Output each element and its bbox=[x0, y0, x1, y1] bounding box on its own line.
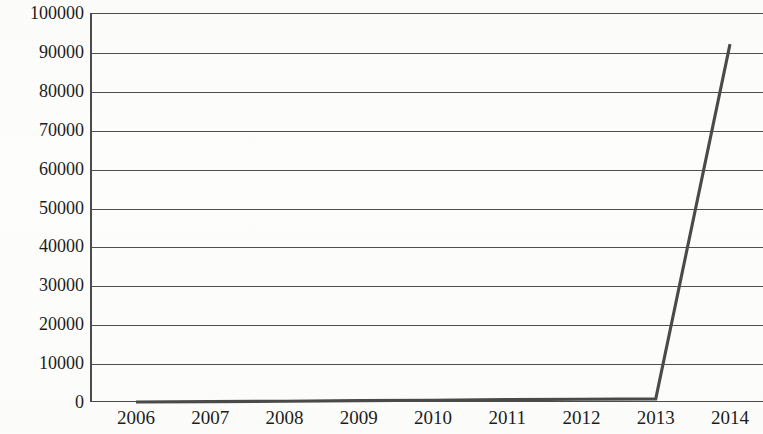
x-tick-label: 2006 bbox=[117, 405, 155, 431]
y-axis-tick-labels: 0100002000030000400005000060000700008000… bbox=[0, 0, 84, 434]
y-tick-label: 100000 bbox=[0, 4, 84, 22]
gridline bbox=[92, 209, 763, 210]
plot-area bbox=[90, 13, 763, 402]
y-tick-label: 60000 bbox=[0, 160, 84, 178]
x-tick-label: 2013 bbox=[637, 405, 675, 431]
y-tick-label: 40000 bbox=[0, 237, 84, 255]
gridline bbox=[92, 247, 763, 248]
x-tick-label: 2008 bbox=[266, 405, 304, 431]
y-tick-label: 90000 bbox=[0, 43, 84, 61]
x-tick-label: 2011 bbox=[489, 405, 526, 431]
x-tick-label: 2010 bbox=[414, 405, 452, 431]
y-tick-label: 50000 bbox=[0, 199, 84, 217]
x-tick-label: 2014 bbox=[711, 405, 749, 431]
y-tick-label: 10000 bbox=[0, 354, 84, 372]
y-tick-label: 70000 bbox=[0, 121, 84, 139]
gridline bbox=[92, 286, 763, 287]
line-chart: 0100002000030000400005000060000700008000… bbox=[0, 0, 763, 434]
gridline bbox=[92, 364, 763, 365]
y-tick-label: 20000 bbox=[0, 315, 84, 333]
x-axis-tick-labels: 200620072008200920102011201220132014 bbox=[0, 405, 763, 434]
x-tick-label: 2012 bbox=[563, 405, 601, 431]
gridline bbox=[92, 131, 763, 132]
y-tick-label: 80000 bbox=[0, 82, 84, 100]
gridline bbox=[92, 325, 763, 326]
y-tick-label: 30000 bbox=[0, 276, 84, 294]
x-tick-label: 2007 bbox=[191, 405, 229, 431]
x-tick-label: 2009 bbox=[340, 405, 378, 431]
gridline bbox=[92, 53, 763, 54]
gridline bbox=[92, 170, 763, 171]
gridline bbox=[92, 92, 763, 93]
